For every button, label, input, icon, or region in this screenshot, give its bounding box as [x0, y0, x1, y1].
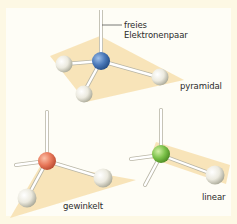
central-atom-red — [38, 152, 56, 170]
ligand-atom — [18, 189, 37, 208]
ligand-atom — [206, 166, 225, 185]
molecule-linear — [131, 110, 230, 185]
ligand-atom — [76, 86, 93, 103]
molecule-pyramidal — [50, 10, 184, 103]
label-pyramidal: pyramidal — [180, 81, 222, 91]
label-gewinkelt: gewinkelt — [63, 201, 103, 211]
diagram-figure: freies Elektronenpaar pyramidal gewinkel… — [0, 0, 237, 224]
label-linear: linear — [202, 192, 225, 202]
annotation-lone-pair-line1: freies — [124, 20, 147, 30]
ligand-atom — [56, 56, 73, 73]
ligand-atom — [152, 69, 169, 86]
central-atom-green — [152, 145, 170, 163]
annotation-lone-pair-line2: Elektronenpaar — [124, 30, 188, 40]
central-atom-blue — [92, 52, 110, 70]
ligand-atom — [94, 169, 113, 188]
molecule-illustration — [0, 0, 237, 224]
